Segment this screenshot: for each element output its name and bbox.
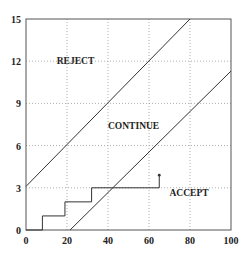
region-label: REJECT	[57, 56, 95, 66]
y-tick-label: 3	[16, 183, 21, 194]
x-tick-label: 60	[144, 235, 154, 246]
x-tick-label: 20	[62, 235, 72, 246]
y-tick-label: 0	[16, 225, 21, 236]
y-tick-label: 9	[16, 98, 21, 109]
y-tick-label: 6	[16, 141, 21, 152]
series-line	[70, 71, 231, 230]
x-tick-label: 40	[103, 235, 113, 246]
x-tick-label: 0	[24, 235, 29, 246]
region-label: CONTINUE	[108, 121, 159, 131]
x-tick-label: 100	[224, 235, 239, 246]
y-tick-label: 15	[11, 14, 21, 25]
region-label: ACCEPT	[170, 188, 210, 198]
x-tick-label: 80	[185, 235, 195, 246]
series-line	[26, 19, 190, 186]
path-endpoint	[158, 174, 161, 177]
y-tick-label: 12	[11, 56, 21, 67]
series-line	[26, 175, 159, 230]
sequential-test-chart: 02040608010003691215 REJECTCONTINUEACCEP…	[0, 0, 247, 262]
